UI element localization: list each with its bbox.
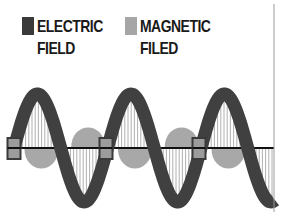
em-wave-diagram <box>0 0 283 224</box>
